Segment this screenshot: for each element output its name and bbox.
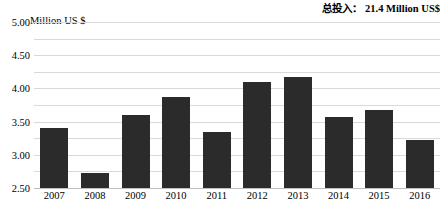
bar	[243, 82, 271, 188]
x-axis-tick-label: 2016	[400, 190, 440, 201]
x-axis-tick-label: 2009	[116, 190, 156, 201]
bar	[162, 97, 190, 188]
x-axis-tick-label: 2015	[359, 190, 399, 201]
y-axis-tick-label: 4.00	[12, 83, 30, 94]
y-axis-tick-label: 2.50	[12, 183, 30, 194]
x-axis-tick-label: 2007	[34, 190, 74, 201]
y-axis-tick-label: 5.00	[12, 17, 30, 28]
bar	[40, 128, 68, 188]
x-axis-tick-label: 2012	[237, 190, 277, 201]
x-axis-tick-label: 2010	[156, 190, 196, 201]
bar	[203, 132, 231, 188]
x-axis-tick-label: 2014	[319, 190, 359, 201]
x-axis-tick-label: 2013	[278, 190, 318, 201]
y-axis-tick-label: 2.00	[12, 216, 30, 218]
bar	[81, 173, 109, 188]
x-axis-tick-label: 2011	[197, 190, 237, 201]
bar	[365, 110, 393, 188]
y-axis-tick-label: 3.50	[12, 116, 30, 127]
y-axis-tick-label: 3.00	[12, 149, 30, 160]
y-axis-tick-label: 4.50	[12, 50, 30, 61]
bar	[406, 140, 434, 188]
plot-area: 5.004.504.003.503.002.502.001.501.000.50…	[34, 22, 440, 188]
bar	[325, 117, 353, 188]
total-investment-value: 21.4 Million US$	[365, 3, 440, 14]
total-investment-annotation: 总投入：21.4 Million US$	[322, 0, 440, 15]
bars-layer	[34, 22, 440, 188]
x-axis-tick-label: 2008	[75, 190, 115, 201]
total-investment-label: 总投入：	[322, 3, 362, 14]
bar	[122, 115, 150, 188]
chart-screenshot: 总投入：21.4 Million US$ Million US $ 5.004.…	[0, 0, 444, 218]
bar	[284, 77, 312, 188]
axis-baseline: 0.00	[34, 188, 440, 189]
x-axis-labels: 2007200820092010201120122013201420152016	[34, 190, 440, 210]
